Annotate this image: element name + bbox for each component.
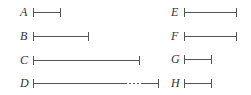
segments-diagram bbox=[0, 0, 251, 95]
segment-f bbox=[184, 32, 237, 41]
segment-e bbox=[184, 8, 237, 17]
segment-a bbox=[33, 8, 61, 17]
segment-label-h: H bbox=[171, 77, 180, 89]
segment-label-d: D bbox=[20, 77, 29, 89]
segment-d bbox=[33, 79, 159, 88]
segment-label-e: E bbox=[171, 6, 178, 18]
segment-label-b: B bbox=[20, 30, 27, 42]
segment-label-f: F bbox=[171, 30, 178, 42]
segment-g bbox=[184, 55, 212, 64]
segment-c bbox=[33, 56, 140, 65]
segment-b bbox=[33, 32, 89, 41]
segment-label-c: C bbox=[20, 54, 28, 66]
segment-h bbox=[184, 79, 212, 88]
segment-label-g: G bbox=[171, 53, 180, 65]
segment-label-a: A bbox=[20, 6, 27, 18]
